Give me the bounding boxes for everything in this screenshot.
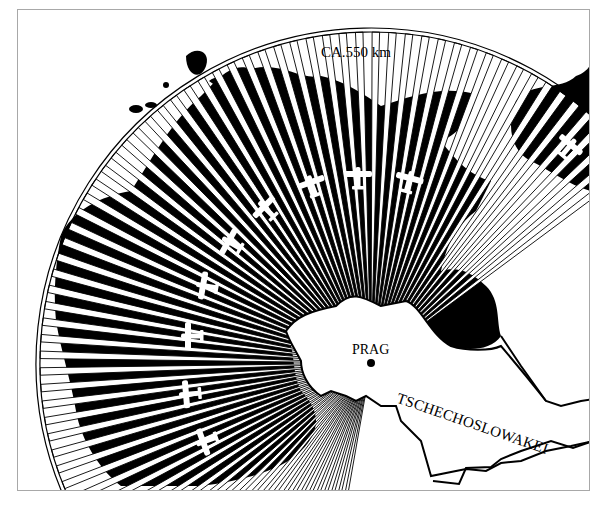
city-label-prague: PRAG xyxy=(352,342,389,358)
prague-marker-icon xyxy=(367,359,375,367)
map-canvas xyxy=(18,10,590,491)
range-label: CA.550 km xyxy=(321,44,391,61)
map-frame: CA.550 km PRAG TSCHECHOSLOWAKEI xyxy=(17,9,590,491)
